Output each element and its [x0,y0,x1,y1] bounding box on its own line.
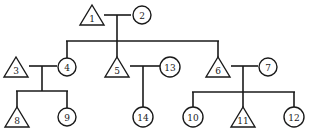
individual-label: 8 [14,116,20,126]
female-individual-13: 13 [160,57,180,77]
female-individual-9: 9 [58,108,76,126]
connector-lines [16,15,295,108]
female-individual-7: 7 [259,58,277,76]
female-individual-2: 2 [133,6,151,24]
female-individual-4: 4 [58,58,76,76]
male-individual-6: 6 [206,57,230,77]
individual-label: 4 [64,63,70,73]
individual-label: 3 [13,66,19,76]
individual-label: 1 [89,14,95,24]
individual-label: 10 [187,113,199,123]
individual-label: 11 [237,116,248,126]
male-individual-1: 1 [80,5,104,25]
male-individual-8: 8 [5,107,29,127]
individual-label: 6 [215,66,221,76]
pedigree-diagram: 1234513678914101112 [0,0,309,133]
individual-label: 13 [164,63,176,73]
male-individual-5: 5 [105,57,129,77]
female-individual-14: 14 [133,107,153,127]
male-individual-3: 3 [4,57,28,77]
individual-label: 7 [265,63,271,73]
individual-label: 9 [64,113,70,123]
individual-label: 12 [288,113,299,123]
male-individual-11: 11 [231,107,255,127]
female-individual-12: 12 [284,107,304,127]
individual-label: 14 [137,113,149,123]
individual-label: 2 [139,11,145,21]
individual-label: 5 [114,66,120,76]
female-individual-10: 10 [183,107,203,127]
